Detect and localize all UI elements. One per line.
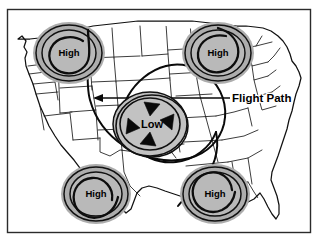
pressure-system-high-northeast[interactable]: High	[182, 22, 254, 84]
weather-map-figure: High High High	[0, 0, 318, 245]
pressure-system-high-northwest[interactable]: High	[33, 22, 105, 84]
pressure-system-high-southwest[interactable]: High	[61, 164, 131, 224]
flight-path-label: Flight Path	[232, 92, 291, 104]
high-sw-label: High	[85, 188, 106, 199]
high-ne-label: High	[207, 47, 228, 58]
high-se-label: High	[204, 188, 225, 199]
pressure-system-high-southeast[interactable]: High	[180, 164, 250, 224]
high-nw-label: High	[58, 47, 79, 58]
weather-map-svg: High High High	[0, 0, 318, 245]
low-label: Low	[141, 118, 163, 130]
